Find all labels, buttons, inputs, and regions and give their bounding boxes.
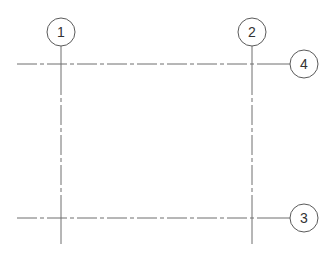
grid-bubble-4[interactable]: 4	[290, 50, 318, 78]
grid-label-2: 2	[248, 24, 256, 40]
grid-bubble-1[interactable]: 1	[47, 18, 75, 46]
grid-diagram: 1 2 4 3	[0, 0, 335, 257]
grid-bubble-3[interactable]: 3	[290, 204, 318, 232]
grid-label-3: 3	[300, 210, 308, 226]
grid-bubble-2[interactable]: 2	[238, 18, 266, 46]
grid-label-1: 1	[57, 24, 65, 40]
grid-label-4: 4	[300, 56, 308, 72]
